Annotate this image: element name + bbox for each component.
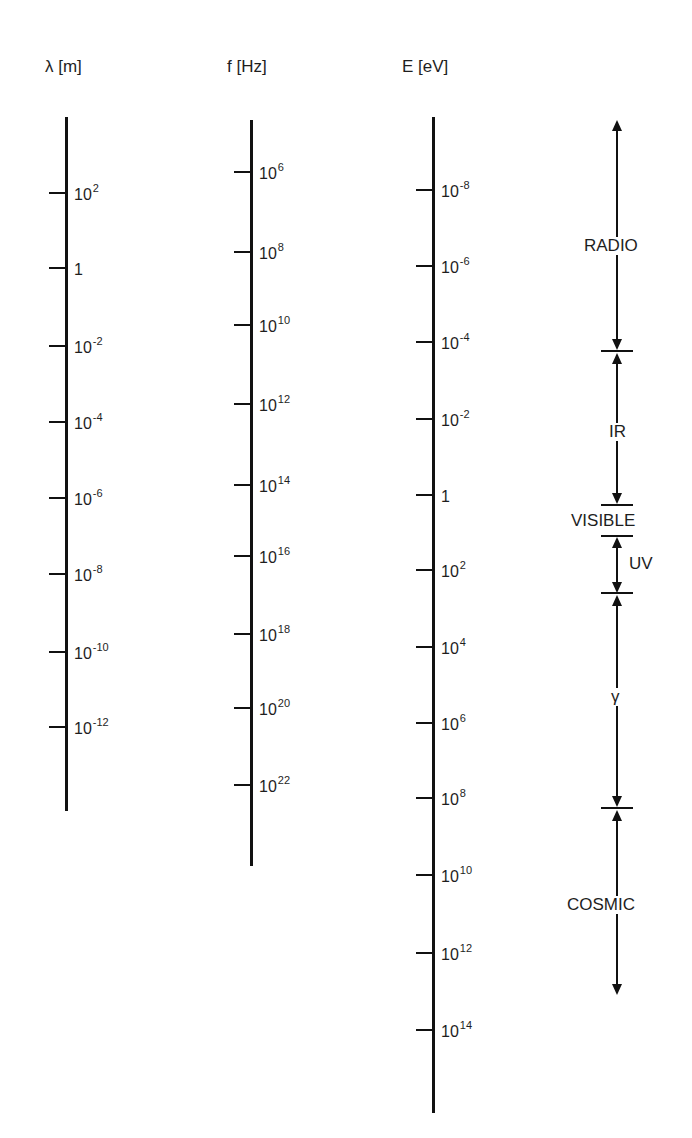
band-label-uv: UV bbox=[629, 555, 653, 573]
band-label-cosmic: COSMIC bbox=[567, 896, 635, 914]
wavelength-tick-label: 10-12 bbox=[74, 721, 109, 738]
band-label-radio: RADIO bbox=[584, 237, 638, 255]
energy-tick-label: 10-6 bbox=[441, 260, 470, 277]
wavelength-tick bbox=[49, 345, 67, 347]
energy-tick bbox=[416, 341, 434, 343]
energy-tick bbox=[416, 874, 434, 876]
wavelength-tick bbox=[49, 267, 67, 269]
wavelength-tick bbox=[49, 651, 67, 653]
frequency-tick-label: 1022 bbox=[259, 779, 290, 796]
wavelength-tick bbox=[49, 497, 67, 499]
energy-tick bbox=[416, 1029, 434, 1031]
energy-tick bbox=[416, 189, 434, 191]
frequency-tick-label: 106 bbox=[259, 166, 284, 183]
wavelength-tick-label: 10-4 bbox=[74, 416, 103, 433]
energy-tick bbox=[416, 797, 434, 799]
wavelength-tick bbox=[49, 726, 67, 728]
band-label-visible: VISIBLE bbox=[571, 512, 635, 530]
frequency-tick-label: 1014 bbox=[259, 479, 290, 496]
wavelength-tick-label: 10-10 bbox=[74, 646, 109, 663]
energy-tick-label: 10-2 bbox=[441, 413, 470, 430]
energy-tick-label: 104 bbox=[441, 641, 466, 658]
wavelength-tick-label: 102 bbox=[74, 187, 99, 204]
energy-tick bbox=[416, 265, 434, 267]
energy-tick-label: 1012 bbox=[441, 947, 472, 964]
frequency-tick bbox=[234, 251, 252, 253]
wavelength-tick bbox=[49, 573, 67, 575]
energy-tick-label: 108 bbox=[441, 792, 466, 809]
frequency-tick bbox=[234, 324, 252, 326]
frequency-tick-label: 1010 bbox=[259, 319, 290, 336]
frequency-tick-label: 1020 bbox=[259, 702, 290, 719]
wavelength-axis-title: λ [m] bbox=[45, 57, 82, 77]
wavelength-tick bbox=[49, 421, 67, 423]
frequency-tick bbox=[234, 784, 252, 786]
energy-tick bbox=[416, 569, 434, 571]
radio-ir-separator bbox=[601, 350, 633, 352]
frequency-tick-label: 1018 bbox=[259, 628, 290, 645]
wavelength-axis-line bbox=[65, 117, 68, 811]
energy-tick bbox=[416, 722, 434, 724]
frequency-tick bbox=[234, 707, 252, 709]
energy-tick bbox=[416, 418, 434, 420]
frequency-tick bbox=[234, 484, 252, 486]
frequency-tick bbox=[234, 633, 252, 635]
frequency-tick-label: 108 bbox=[259, 246, 284, 263]
band-label-ir: IR bbox=[609, 423, 626, 441]
energy-tick-label: 1010 bbox=[441, 869, 472, 886]
frequency-tick-label: 1016 bbox=[259, 550, 290, 567]
wavelength-tick-label: 10-2 bbox=[74, 340, 103, 357]
energy-axis-title: E [eV] bbox=[402, 57, 448, 77]
energy-tick-label: 102 bbox=[441, 564, 466, 581]
energy-tick-label: 10-4 bbox=[441, 336, 470, 353]
energy-tick-label: 106 bbox=[441, 717, 466, 734]
wavelength-tick-label: 10-6 bbox=[74, 492, 103, 509]
frequency-axis-line bbox=[250, 120, 253, 866]
radio-range-line bbox=[616, 130, 618, 340]
band-label-gamma: γ bbox=[611, 688, 620, 706]
frequency-tick bbox=[234, 555, 252, 557]
energy-tick-label: 1 bbox=[441, 489, 450, 505]
gamma-arrow-down-icon bbox=[612, 796, 622, 807]
energy-tick-label: 1014 bbox=[441, 1024, 472, 1041]
frequency-tick bbox=[234, 403, 252, 405]
gamma-cosmic-separator bbox=[601, 807, 633, 809]
uv-gamma-separator bbox=[601, 592, 633, 594]
ir-arrow-down-icon bbox=[612, 493, 622, 504]
ir-visible-separator bbox=[601, 504, 633, 506]
wavelength-tick-label: 10-8 bbox=[74, 568, 103, 585]
wavelength-tick-label: 1 bbox=[74, 262, 83, 278]
energy-tick-label: 10-8 bbox=[441, 184, 470, 201]
frequency-tick bbox=[234, 171, 252, 173]
wavelength-tick bbox=[49, 192, 67, 194]
energy-tick bbox=[416, 494, 434, 496]
uv-range-line bbox=[616, 547, 618, 583]
cosmic-arrow-down-icon bbox=[612, 984, 622, 995]
radio-arrow-down-icon bbox=[612, 339, 622, 350]
energy-tick bbox=[416, 952, 434, 954]
frequency-tick-label: 1012 bbox=[259, 398, 290, 415]
frequency-axis-title: f [Hz] bbox=[227, 57, 267, 77]
energy-tick bbox=[416, 646, 434, 648]
